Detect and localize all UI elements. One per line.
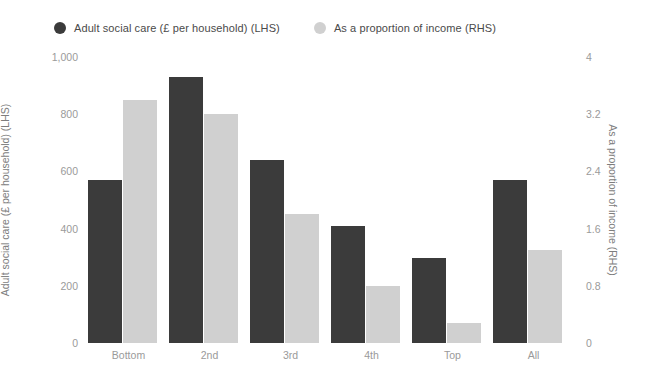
bar-adult-social-care[interactable]	[250, 160, 284, 343]
bar-chart: Adult social care (£ per household) (LHS…	[0, 0, 655, 385]
bar-group	[250, 57, 331, 343]
right-axis-tick-label: 2.4	[586, 166, 601, 177]
chart-legend: Adult social care (£ per household) (LHS…	[54, 18, 496, 38]
bar-proportion-of-income[interactable]	[447, 323, 481, 343]
bar-adult-social-care[interactable]	[331, 226, 365, 343]
right-axis-tick-label: 1.6	[586, 224, 601, 235]
right-axis-tick-label: 3.2	[586, 109, 601, 120]
bar-group	[169, 57, 250, 343]
bar-adult-social-care[interactable]	[169, 77, 203, 343]
left-axis-tick-label: 800	[60, 109, 78, 120]
bar-group	[493, 57, 574, 343]
category-tick-label: 3rd	[250, 349, 331, 361]
category-tick-label: All	[493, 349, 574, 361]
bar-proportion-of-income[interactable]	[285, 214, 319, 343]
category-axis-ticks: Bottom2nd3rd4thTopAll	[88, 349, 574, 369]
left-axis-tick-label: 200	[60, 281, 78, 292]
legend-item-adult-social-care[interactable]: Adult social care (£ per household) (LHS…	[54, 22, 280, 34]
bar-group	[331, 57, 412, 343]
left-axis-tick-label: 600	[60, 166, 78, 177]
right-axis-tick-label: 0.8	[586, 281, 601, 292]
left-axis-tick-label: 1,000	[52, 52, 78, 63]
left-axis-tick-label: 400	[60, 224, 78, 235]
category-tick-label: 4th	[331, 349, 412, 361]
bar-proportion-of-income[interactable]	[204, 114, 238, 343]
category-tick-label: Bottom	[88, 349, 169, 361]
bar-adult-social-care[interactable]	[493, 180, 527, 343]
bar-group	[412, 57, 493, 343]
bar-proportion-of-income[interactable]	[366, 286, 400, 343]
right-axis-tick-label: 4	[586, 52, 592, 63]
right-axis-tick-label: 0	[586, 338, 592, 349]
bar-adult-social-care[interactable]	[88, 180, 122, 343]
bar-group	[88, 57, 169, 343]
category-tick-label: 2nd	[169, 349, 250, 361]
right-axis-ticks: 00.81.62.43.24	[586, 57, 626, 343]
circle-marker-icon	[54, 22, 66, 34]
legend-item-proportion-of-income[interactable]: As a proportion of income (RHS)	[314, 22, 496, 34]
left-axis-tick-label: 0	[72, 338, 78, 349]
legend-item-label: Adult social care (£ per household) (LHS…	[74, 22, 280, 34]
bar-proportion-of-income[interactable]	[528, 250, 562, 343]
bar-adult-social-care[interactable]	[412, 258, 446, 343]
category-tick-label: Top	[412, 349, 493, 361]
circle-marker-icon	[314, 22, 326, 34]
left-axis-title: Adult social care (£ per household) (LHS…	[0, 57, 14, 343]
left-axis-ticks: 02004006008001,000	[30, 57, 78, 343]
plot-area	[88, 57, 574, 343]
legend-item-label: As a proportion of income (RHS)	[334, 22, 496, 34]
bar-proportion-of-income[interactable]	[123, 100, 157, 343]
